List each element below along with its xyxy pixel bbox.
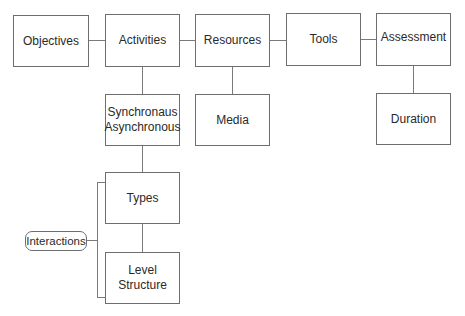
resources-box: Resources: [195, 14, 270, 67]
interactions-label: Interactions: [26, 235, 85, 247]
interactions-bracket-top: [97, 182, 105, 183]
activities-label: Activities: [119, 33, 166, 48]
assessment-box: Assessment: [376, 13, 451, 66]
duration-box: Duration: [376, 93, 451, 145]
media-box: Media: [195, 94, 270, 146]
connector-objectives-activities: [88, 40, 105, 41]
types-label: Types: [126, 191, 158, 206]
connector-assessment-duration: [413, 65, 414, 93]
objectives-label: Objectives: [23, 34, 79, 49]
tools-box: Tools: [286, 13, 361, 66]
synchronous-asynchronous-box: Synchronaus Asynchronous: [105, 94, 180, 146]
assessment-label: Assessment: [381, 30, 446, 45]
objectives-box: Objectives: [13, 15, 89, 67]
level-structure-box: Level Structure: [105, 252, 180, 304]
duration-label: Duration: [391, 112, 436, 127]
connector-activities-synchronous: [142, 66, 143, 94]
interactions-bracket: [97, 182, 98, 298]
resources-label: Resources: [204, 33, 261, 48]
connector-synchronous-types: [142, 145, 143, 172]
connector-activities-resources: [179, 40, 195, 41]
level-structure-label: Level Structure: [118, 263, 167, 293]
synchronous-asynchronous-label: Synchronaus Asynchronous: [104, 105, 180, 135]
connector-resources-media: [232, 66, 233, 94]
media-label: Media: [216, 113, 249, 128]
interactions-pill: Interactions: [25, 231, 87, 251]
connector-types-level-structure: [142, 223, 143, 252]
interactions-bracket-tick: [86, 240, 97, 241]
connector-tools-assessment: [360, 39, 376, 40]
types-box: Types: [105, 172, 180, 224]
tools-label: Tools: [309, 32, 337, 47]
interactions-bracket-bottom: [97, 297, 105, 298]
activities-box: Activities: [105, 14, 180, 67]
connector-resources-tools: [269, 40, 286, 41]
